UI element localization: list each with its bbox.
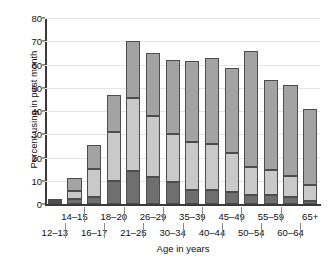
bar-group — [45, 18, 320, 204]
bar-segment-top — [126, 41, 140, 98]
bar-segment-middle — [146, 116, 160, 178]
x-axis-separator — [281, 207, 282, 222]
bar-segment-top — [264, 80, 278, 171]
bar — [185, 61, 199, 204]
bar — [205, 58, 219, 204]
y-axis-tick-label: 20 — [31, 152, 42, 163]
bar — [303, 109, 317, 204]
bar-segment-bottom — [264, 195, 278, 204]
y-axis-tick-label: 10 — [31, 175, 42, 186]
bar-segment-top — [67, 178, 81, 190]
bar-segment-top — [205, 58, 219, 144]
bar-segment-bottom — [166, 182, 180, 204]
bar-segment-top — [225, 68, 239, 153]
bar — [244, 51, 258, 204]
bar-segment-middle — [283, 176, 297, 197]
bar — [166, 60, 180, 204]
bar-segment-bottom — [146, 177, 160, 204]
y-axis-tick-label: 30 — [31, 129, 42, 140]
bar-segment-middle — [244, 167, 258, 195]
bar-segment-middle — [87, 169, 101, 197]
bar-segment-bottom — [283, 197, 297, 204]
bar-segment-bottom — [67, 199, 81, 204]
y-axis-tick-label: 40 — [31, 106, 42, 117]
bar-segment-bottom — [225, 192, 239, 204]
stacked-bar-chart: Percent using in past month 010203040506… — [0, 0, 330, 265]
bar-segment-middle — [303, 185, 317, 200]
bar-segment-top — [146, 53, 160, 116]
bar — [67, 178, 81, 204]
bar — [146, 53, 160, 204]
bar — [48, 199, 62, 204]
bar-segment-middle — [67, 191, 81, 200]
plot-area: 01020304050607080 — [45, 18, 320, 204]
bar-segment-top — [185, 61, 199, 142]
bar-segment-top — [48, 199, 62, 201]
x-axis-separator — [222, 223, 223, 238]
bar-segment-bottom — [185, 190, 199, 204]
bar-segment-bottom — [87, 197, 101, 204]
bar-segment-middle — [225, 153, 239, 193]
bar-segment-middle — [126, 98, 140, 171]
x-axis-separator — [241, 207, 242, 222]
bar-segment-top — [87, 145, 101, 169]
bar-segment-top — [283, 85, 297, 176]
bar-segment-bottom — [126, 171, 140, 204]
bar-segment-middle — [107, 132, 121, 181]
x-axis-separator — [300, 223, 301, 238]
bar-segment-top — [303, 109, 317, 186]
y-axis-tick-label: 80 — [31, 13, 42, 24]
bar-segment-middle — [185, 142, 199, 190]
bar-segment-top — [244, 51, 258, 167]
bar-segment-top — [166, 60, 180, 134]
bar-segment-bottom — [303, 201, 317, 204]
bar — [264, 80, 278, 204]
bar-segment-middle — [205, 144, 219, 191]
bar-segment-middle — [166, 134, 180, 182]
bar-segment-top — [107, 95, 121, 132]
y-axis-tick-label: 0 — [37, 199, 42, 210]
x-axis-separator — [163, 207, 164, 222]
x-axis-title: Age in years — [45, 243, 321, 254]
y-axis-tick-label: 50 — [31, 82, 42, 93]
bar-segment-middle — [264, 170, 278, 194]
x-axis-separator — [104, 223, 105, 238]
x-axis-separator — [183, 223, 184, 238]
bar — [283, 85, 297, 204]
bar — [225, 68, 239, 204]
bar — [107, 95, 121, 204]
x-axis-separator — [143, 223, 144, 238]
x-axis-separator — [202, 207, 203, 222]
bar-segment-bottom — [107, 181, 121, 204]
x-axis-label-14: 65+ — [302, 211, 318, 222]
bar-segment-bottom — [205, 190, 219, 204]
bar — [87, 145, 101, 204]
y-axis-tick-label: 70 — [31, 36, 42, 47]
x-axis-separator — [84, 207, 85, 222]
y-axis-tick-label: 60 — [31, 59, 42, 70]
x-axis-category-labels: 12–1314–1516–1718–2021–2526–2930–3435–39… — [45, 205, 321, 241]
x-axis-separator — [65, 223, 66, 238]
bar — [126, 41, 140, 204]
x-axis-separator — [261, 223, 262, 238]
bar-segment-bottom — [244, 195, 258, 204]
x-axis-separator — [124, 207, 125, 222]
